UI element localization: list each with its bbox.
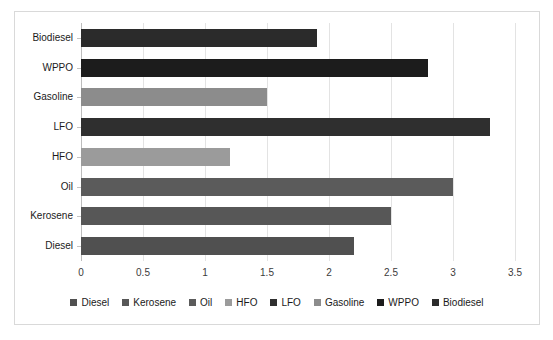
legend-item-label: Biodiesel bbox=[443, 297, 484, 308]
legend-swatch-icon bbox=[377, 299, 384, 306]
legend-item-label: WPPO bbox=[388, 297, 419, 308]
legend-item-kerosene[interactable]: Kerosene bbox=[122, 297, 176, 308]
bar-row: HFO bbox=[81, 148, 515, 166]
bar-row: Oil bbox=[81, 178, 515, 196]
bar-row: Gasoline bbox=[81, 88, 515, 106]
bar-lfo[interactable] bbox=[81, 118, 490, 136]
legend-item-label: HFO bbox=[236, 297, 257, 308]
bar-gasoline[interactable] bbox=[81, 88, 267, 106]
y-axis-tick bbox=[77, 127, 81, 128]
legend-item-label: Oil bbox=[200, 297, 212, 308]
legend-swatch-icon bbox=[225, 299, 232, 306]
plot-area: 00.511.522.533.5BiodieselWPPOGasolineLFO… bbox=[81, 23, 515, 261]
y-axis-tick bbox=[77, 68, 81, 69]
y-axis-tick bbox=[77, 97, 81, 98]
legend-swatch-icon bbox=[122, 299, 129, 306]
x-axis-tick-label: 0 bbox=[78, 267, 84, 278]
y-axis-category-label: Oil bbox=[61, 182, 73, 192]
y-axis-category-label: Kerosene bbox=[30, 211, 73, 221]
legend-item-diesel[interactable]: Diesel bbox=[70, 297, 109, 308]
x-axis-tick-label: 1.5 bbox=[260, 267, 274, 278]
x-axis-tick-label: 2 bbox=[326, 267, 332, 278]
y-axis-category-label: Gasoline bbox=[34, 92, 73, 102]
bar-biodiesel[interactable] bbox=[81, 29, 317, 47]
legend-item-wppo[interactable]: WPPO bbox=[377, 297, 419, 308]
y-axis-tick bbox=[77, 216, 81, 217]
y-axis-category-label: Biodiesel bbox=[32, 33, 73, 43]
x-axis-tick-label: 2.5 bbox=[384, 267, 398, 278]
legend-item-gasoline[interactable]: Gasoline bbox=[314, 297, 364, 308]
x-axis-tick-label: 0.5 bbox=[136, 267, 150, 278]
x-axis-tick-label: 3 bbox=[450, 267, 456, 278]
bar-row: LFO bbox=[81, 118, 515, 136]
legend-swatch-icon bbox=[314, 299, 321, 306]
chart-container: 00.511.522.533.5BiodieselWPPOGasolineLFO… bbox=[14, 11, 540, 325]
y-axis-tick bbox=[77, 246, 81, 247]
y-axis-tick bbox=[77, 38, 81, 39]
y-axis-category-label: HFO bbox=[52, 152, 73, 162]
legend-swatch-icon bbox=[432, 299, 439, 306]
bar-row: Kerosene bbox=[81, 207, 515, 225]
bar-row: Biodiesel bbox=[81, 29, 515, 47]
x-axis-tick-label: 1 bbox=[202, 267, 208, 278]
legend-swatch-icon bbox=[70, 299, 77, 306]
legend-item-label: Gasoline bbox=[325, 297, 364, 308]
chart-legend: DieselKeroseneOilHFOLFOGasolineWPPOBiodi… bbox=[15, 297, 539, 308]
y-axis-tick bbox=[77, 187, 81, 188]
legend-item-oil[interactable]: Oil bbox=[189, 297, 212, 308]
legend-swatch-icon bbox=[270, 299, 277, 306]
legend-item-lfo[interactable]: LFO bbox=[270, 297, 300, 308]
legend-item-label: LFO bbox=[281, 297, 300, 308]
y-axis-tick bbox=[77, 157, 81, 158]
bar-diesel[interactable] bbox=[81, 237, 354, 255]
legend-item-hfo[interactable]: HFO bbox=[225, 297, 257, 308]
bar-kerosene[interactable] bbox=[81, 207, 391, 225]
bar-row: WPPO bbox=[81, 59, 515, 77]
y-axis-category-label: WPPO bbox=[42, 63, 73, 73]
bar-row: Diesel bbox=[81, 237, 515, 255]
legend-item-biodiesel[interactable]: Biodiesel bbox=[432, 297, 484, 308]
gridline-3.5 bbox=[515, 23, 516, 261]
bar-wppo[interactable] bbox=[81, 59, 428, 77]
legend-item-label: Diesel bbox=[81, 297, 109, 308]
legend-swatch-icon bbox=[189, 299, 196, 306]
legend-item-label: Kerosene bbox=[133, 297, 176, 308]
bar-oil[interactable] bbox=[81, 178, 453, 196]
y-axis-category-label: Diesel bbox=[45, 241, 73, 251]
bar-hfo[interactable] bbox=[81, 148, 230, 166]
y-axis-category-label: LFO bbox=[54, 122, 73, 132]
x-axis-tick-label: 3.5 bbox=[508, 267, 522, 278]
